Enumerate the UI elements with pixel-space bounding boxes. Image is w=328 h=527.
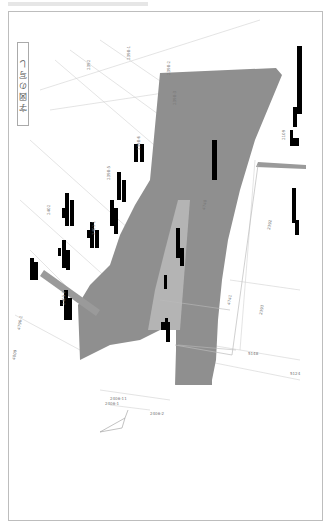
svg-text:2392: 2392	[86, 59, 91, 70]
svg-text:2398-2: 2398-2	[166, 60, 171, 75]
document-title: 字図の写し	[18, 57, 29, 112]
title-label-box: 字図の写し	[17, 42, 29, 126]
svg-text:2406-1: 2406-1	[105, 401, 120, 406]
svg-text:2392: 2392	[266, 219, 273, 230]
svg-text:2406-2: 2406-2	[150, 411, 165, 416]
svg-text:4741: 4741	[226, 294, 233, 305]
svg-text:2398-1: 2398-1	[126, 45, 131, 60]
svg-text:4809: 4809	[11, 349, 18, 360]
side-strip-right	[256, 162, 306, 169]
svg-text:4796-1: 4796-1	[16, 315, 23, 330]
svg-text:2402: 2402	[46, 204, 51, 215]
svg-text:5148: 5148	[248, 351, 259, 356]
map-canvas: 2392 2398-1 2398-2 2398-3 2398-6 2398-5 …	[0, 0, 328, 527]
svg-text:2401-1: 2401-1	[91, 220, 96, 235]
svg-text:2398-3: 2398-3	[172, 90, 177, 105]
svg-text:2405-2: 2405-2	[61, 290, 66, 305]
svg-text:5124: 5124	[290, 371, 301, 376]
svg-text:2393: 2393	[258, 304, 265, 315]
svg-text:2398-6: 2398-6	[136, 135, 141, 150]
north-arrow-icon	[100, 410, 128, 432]
svg-text:2398-5: 2398-5	[106, 165, 111, 180]
road-band-lower	[176, 330, 212, 385]
svg-text:2109: 2109	[281, 129, 286, 140]
